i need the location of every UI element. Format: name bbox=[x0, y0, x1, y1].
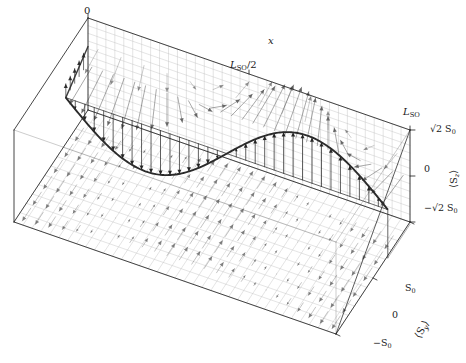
x-tick-label-half: LSO/2 bbox=[230, 60, 257, 72]
z-tick-label-bottom: −√2 S0 bbox=[424, 203, 458, 214]
back-plane-grid bbox=[88, 18, 410, 222]
x-axis-label: x bbox=[268, 36, 274, 46]
z-axis-label: ⟨Sz⟩ bbox=[449, 170, 461, 188]
y-tick-label-top: S0 bbox=[405, 283, 416, 294]
y-tick-label-mid: 0 bbox=[392, 310, 398, 320]
sz-curve-group bbox=[64, 47, 410, 258]
z-tick-label-mid: 0 bbox=[424, 164, 430, 174]
y-tick-label-bottom: −S0 bbox=[373, 338, 392, 349]
x-tick-label-0: 0 bbox=[84, 6, 90, 16]
back-plane-vector-field bbox=[70, 50, 403, 206]
z-tick-label-top: √2 S0 bbox=[430, 124, 456, 135]
x-tick-label-full: LSO bbox=[403, 107, 420, 119]
figure-root: 0 LSO/2 LSO x √2 S0 0 −√2 S0 ⟨Sz⟩ S0 0 −… bbox=[0, 0, 466, 363]
